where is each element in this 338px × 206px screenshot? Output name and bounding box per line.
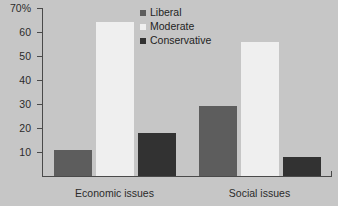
category-label: Social issues: [229, 188, 290, 199]
category-label: Economic issues: [75, 188, 154, 199]
y-axis-label: 50: [19, 51, 31, 62]
bar-moderate-0: [96, 22, 134, 176]
y-axis-label: 10: [19, 147, 31, 158]
legend-item-liberal[interactable]: Liberal: [140, 6, 211, 19]
legend-label: Moderate: [150, 21, 194, 32]
bar-moderate-1: [241, 42, 279, 176]
legend-label: Liberal: [150, 7, 182, 18]
y-axis-tick: [37, 152, 42, 153]
y-axis-label: 30: [19, 99, 31, 110]
y-axis-label: 20: [19, 123, 31, 134]
bar-liberal-1: [199, 106, 237, 176]
y-axis-tick: [37, 56, 42, 57]
y-axis-tick: [37, 32, 42, 33]
chart-legend: LiberalModerateConservative: [140, 6, 211, 47]
bar-conservative-1: [283, 157, 321, 176]
legend-label: Conservative: [150, 35, 211, 46]
bar-conservative-0: [138, 133, 176, 176]
x-axis-line: [42, 176, 332, 177]
y-axis-label: 60: [19, 27, 31, 38]
legend-swatch-icon: [140, 38, 146, 44]
y-axis-label: 70%: [10, 3, 31, 14]
y-axis-label: 40: [19, 75, 31, 86]
y-axis-tick: [37, 104, 42, 105]
y-axis-line: [42, 8, 43, 176]
y-axis-tick: [37, 8, 42, 9]
bar-liberal-0: [54, 150, 92, 176]
legend-swatch-icon: [140, 10, 146, 16]
legend-item-moderate[interactable]: Moderate: [140, 20, 211, 33]
bar-chart: 70%605040302010 Economic issuesSocial is…: [0, 0, 338, 206]
x-axis-end-tick: [331, 171, 332, 177]
y-axis-tick: [37, 80, 42, 81]
legend-item-conservative[interactable]: Conservative: [140, 34, 211, 47]
y-axis-tick: [37, 128, 42, 129]
legend-swatch-icon: [140, 24, 146, 30]
